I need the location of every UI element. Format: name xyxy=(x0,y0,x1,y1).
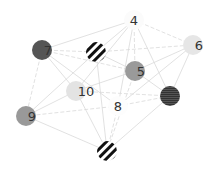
edge-9-s2 xyxy=(26,116,107,151)
network-graph: 46751089 xyxy=(0,0,214,171)
node-label: 9 xyxy=(28,109,36,124)
node-circle[interactable] xyxy=(97,141,117,161)
edge-7-9 xyxy=(26,50,42,116)
graph-node-9[interactable]: 9 xyxy=(16,106,36,126)
node-label: 6 xyxy=(195,38,203,53)
graph-node-6[interactable]: 6 xyxy=(183,35,203,55)
node-label: 5 xyxy=(137,64,145,79)
node-label: 4 xyxy=(130,13,138,28)
node-label: 8 xyxy=(114,99,122,114)
edge-8-9 xyxy=(26,106,118,116)
node-label: 7 xyxy=(44,43,52,58)
edge-4-7 xyxy=(42,20,134,50)
graph-node-s1[interactable] xyxy=(86,42,106,62)
node-circle[interactable] xyxy=(160,86,180,106)
graph-node-10[interactable]: 10 xyxy=(66,81,94,101)
graph-node-h1[interactable] xyxy=(160,86,180,106)
graph-node-8[interactable]: 8 xyxy=(108,96,128,116)
graph-node-7[interactable]: 7 xyxy=(32,40,52,60)
graph-node-s2[interactable] xyxy=(97,141,117,161)
node-circle[interactable] xyxy=(86,42,106,62)
graph-node-5[interactable]: 5 xyxy=(125,61,145,81)
graph-node-4[interactable]: 4 xyxy=(124,10,144,30)
edge-layer xyxy=(26,20,193,151)
node-label: 10 xyxy=(78,84,95,99)
edge-s1-s2 xyxy=(96,52,107,151)
edge-10-s2 xyxy=(76,91,107,151)
